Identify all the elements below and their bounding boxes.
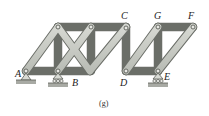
figure-caption: (g) bbox=[99, 99, 109, 108]
label-b: B bbox=[72, 77, 78, 88]
label-g: G bbox=[154, 10, 161, 21]
label-f: F bbox=[187, 10, 195, 21]
truss-diagram: A B C D E F G (g) bbox=[0, 0, 209, 116]
truss-members bbox=[26, 27, 193, 71]
label-c: C bbox=[121, 10, 128, 21]
label-a: A bbox=[14, 68, 22, 79]
label-e: E bbox=[163, 71, 170, 82]
label-d: D bbox=[119, 77, 128, 88]
